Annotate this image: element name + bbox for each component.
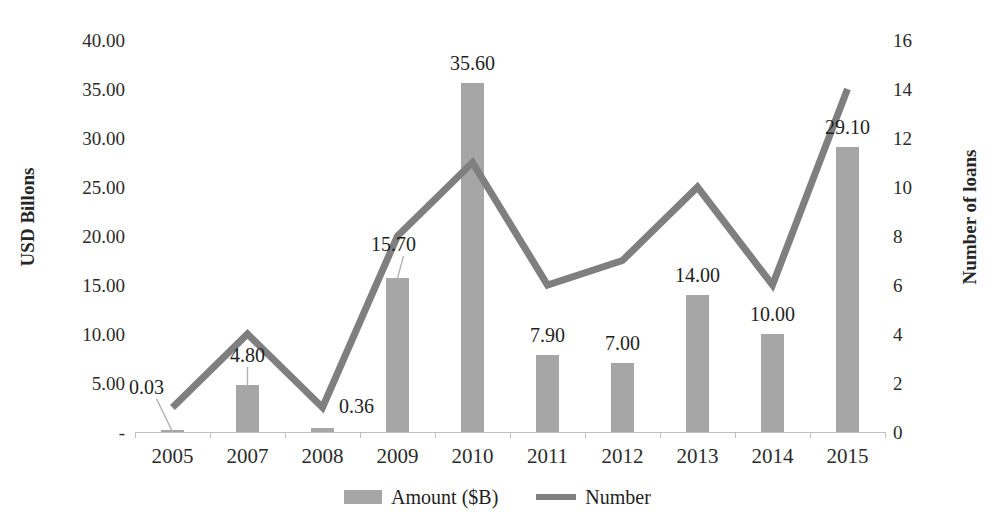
x-axis-label-2007: 2007 [227,444,269,468]
y-axis-right-tick-label: 14 [893,80,912,99]
y-axis-right-ticks: 1614121086420 [893,0,963,529]
x-axis-label-2015: 2015 [827,444,869,468]
data-label-2005: 0.03 [129,377,164,397]
legend-item-number[interactable]: Number [536,487,651,507]
leader-line [157,399,173,432]
y-axis-right-tick-label: 6 [893,276,903,295]
category-tickmark [885,432,886,438]
y-axis-left-tick-label: 35.00 [82,80,125,99]
data-label-2008: 0.36 [339,396,374,416]
y-axis-right-tick-label: 10 [893,178,912,197]
data-label-2015: 29.10 [825,117,870,137]
y-axis-right-tick-label: 12 [893,129,912,148]
x-axis-label-2011: 2011 [527,444,568,468]
leader-line [398,256,404,278]
label-leader-lines [135,0,885,460]
x-axis-label-2008: 2008 [302,444,344,468]
y-axis-left-tick-label: 30.00 [82,129,125,148]
y-axis-right-tick-label: 2 [893,374,903,393]
x-axis-categories: 2005200720082009201020112012201320142015 [135,444,885,474]
y-axis-left-title: USD Billons [17,137,39,297]
y-axis-left-tick-label: 40.00 [82,31,125,50]
x-axis-label-2009: 2009 [377,444,419,468]
chart-container: USD Billons Number of loans 40.0035.0030… [0,0,995,529]
data-label-2009: 15.70 [371,234,416,254]
data-label-2011: 7.90 [530,325,565,345]
y-axis-left-tick-label: 20.00 [82,227,125,246]
x-axis-label-2013: 2013 [677,444,719,468]
y-axis-left-tick-label: 25.00 [82,178,125,197]
y-axis-right-tick-label: 16 [893,31,912,50]
legend-item-amount[interactable]: Amount ($B) [344,487,498,507]
data-labels-layer: 0.034.800.3615.7035.607.907.0014.0010.00… [135,0,885,460]
legend-label: Number [585,487,651,507]
x-axis-label-2014: 2014 [752,444,794,468]
x-axis-label-2010: 2010 [452,444,494,468]
chart-legend: Amount ($B)Number [0,487,995,507]
data-label-2012: 7.00 [605,333,640,353]
y-axis-left-tick-label: - [119,423,125,442]
y-axis-right-tick-label: 8 [893,227,903,246]
legend-bar-swatch-icon [344,490,382,504]
y-axis-right-tick-label: 4 [893,325,903,344]
y-axis-left-ticks: 40.0035.0030.0025.0020.0015.0010.005.00- [55,0,125,529]
data-label-2010: 35.60 [450,53,495,73]
data-label-2014: 10.00 [750,304,795,324]
y-axis-right-tick-label: 0 [893,423,903,442]
y-axis-left-tick-label: 5.00 [92,374,125,393]
legend-label: Amount ($B) [391,487,498,507]
x-axis-label-2005: 2005 [152,444,194,468]
legend-line-swatch-icon [536,494,576,500]
data-label-2013: 14.00 [675,265,720,285]
x-axis-label-2012: 2012 [602,444,644,468]
y-axis-left-tick-label: 10.00 [82,325,125,344]
y-axis-left-tick-label: 15.00 [82,276,125,295]
data-label-2007: 4.80 [230,345,265,365]
